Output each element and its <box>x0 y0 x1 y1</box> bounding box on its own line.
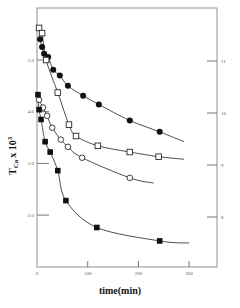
fit-curves <box>38 28 189 243</box>
data-point-filled-circle <box>80 93 86 99</box>
data-point-open-circle <box>58 137 64 143</box>
y-left-tick-label: 2.0 <box>28 213 35 218</box>
y-right-tick-label: 10 <box>221 111 227 116</box>
data-point-open-square <box>156 154 162 160</box>
data-point-open-circle <box>49 125 55 131</box>
y-axis-title: TCax 103 <box>6 136 20 175</box>
y-right-tick-label: 8 <box>221 215 224 220</box>
y-left-tick-label: 5.0 <box>28 58 35 63</box>
data-point-open-circle <box>127 175 133 181</box>
y-axis-title-mult: x 10 <box>7 140 18 158</box>
data-point-open-square <box>55 90 61 96</box>
data-point-filled-circle <box>39 44 45 50</box>
data-point-filled-circle <box>57 73 63 79</box>
data-points <box>35 25 162 244</box>
data-point-open-square <box>36 25 42 31</box>
data-point-filled-square <box>157 238 163 244</box>
data-point-open-square <box>95 143 101 149</box>
data-point-filled-circle <box>65 83 71 89</box>
data-point-filled-circle <box>96 101 102 107</box>
data-point-open-circle <box>79 155 85 161</box>
data-point-filled-circle <box>127 117 133 123</box>
y-axis-title-sub: Ca <box>12 159 20 168</box>
data-point-open-circle <box>36 97 42 103</box>
data-point-filled-square <box>36 107 42 113</box>
data-point-filled-square <box>35 92 41 98</box>
y-axis-title-exp: 3 <box>6 136 14 140</box>
fit-curve <box>38 95 189 243</box>
data-point-filled-square <box>42 139 48 145</box>
svg-text:TCax 103: TCax 103 <box>6 136 20 175</box>
data-point-open-square <box>43 57 49 63</box>
data-point-filled-square <box>38 117 44 123</box>
data-point-filled-square <box>55 168 61 174</box>
data-point-open-square <box>39 30 45 36</box>
x-axis-title: time(min) <box>99 285 141 297</box>
y-left-tick-label: 3.0 <box>28 161 35 166</box>
data-point-open-circle <box>44 113 50 119</box>
data-point-open-square <box>73 133 79 139</box>
x-tick-label: 0 <box>36 271 39 276</box>
data-point-open-square <box>127 149 133 155</box>
data-point-filled-circle <box>37 36 43 42</box>
fit-curve <box>40 39 184 141</box>
data-point-open-square <box>66 122 72 128</box>
data-point-filled-square <box>47 149 53 155</box>
data-point-open-circle <box>65 144 71 150</box>
x-tick-label: 300 <box>185 271 193 276</box>
data-point-filled-circle <box>50 67 56 73</box>
x-tick-label: 200 <box>135 271 143 276</box>
plot-frame <box>37 8 217 267</box>
y-right-tick-label: 9 <box>221 163 224 168</box>
x-tick-label: 100 <box>84 271 92 276</box>
data-point-filled-square <box>94 225 100 231</box>
chart: 01002003005.04.03.02.0111098 time(min) T… <box>0 0 240 308</box>
y-left-tick-label: 4.0 <box>28 109 35 114</box>
data-point-filled-square <box>63 198 69 204</box>
y-right-tick-label: 11 <box>221 59 226 64</box>
data-point-filled-circle <box>157 129 163 135</box>
